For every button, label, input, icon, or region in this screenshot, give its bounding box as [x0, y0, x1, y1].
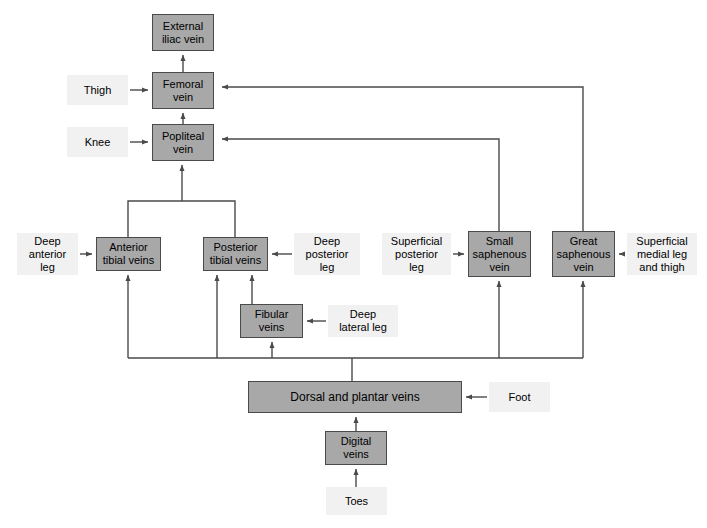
source-label-toes: Toes	[326, 487, 387, 515]
source-label-thigh: Thigh	[67, 75, 128, 105]
node-small-saphenous-vein: Small saphenous vein	[468, 231, 531, 277]
wire-tibial-junction	[128, 201, 235, 237]
node-posterior-tibial-veins: Posterior tibial veins	[203, 237, 268, 271]
source-label-deep-lateral-leg: Deep lateral leg	[328, 305, 398, 337]
source-label-superficial-medial-leg-and-thigh: Superficial medial leg and thigh	[627, 233, 697, 275]
node-fibular-veins: Fibular veins	[240, 304, 303, 338]
source-label-knee: Knee	[67, 127, 128, 157]
source-label-foot: Foot	[489, 382, 550, 412]
wire-great-saphenous-to-femoral	[222, 87, 583, 231]
node-femoral-vein: Femoral vein	[152, 72, 214, 109]
source-label-superficial-posterior-leg: Superficial posterior leg	[382, 233, 451, 275]
node-popliteal-vein: Popliteal vein	[152, 124, 214, 161]
node-digital-veins: Digital veins	[325, 431, 387, 465]
venous-drainage-diagram: External iliac veinFemoral veinPopliteal…	[0, 0, 707, 528]
node-anterior-tibial-veins: Anterior tibial veins	[96, 237, 161, 271]
node-great-saphenous-vein: Great saphenous vein	[552, 231, 615, 277]
node-dorsal-and-plantar-veins: Dorsal and plantar veins	[248, 381, 462, 413]
source-label-deep-anterior-leg: Deep anterior leg	[17, 233, 78, 275]
source-label-deep-posterior-leg: Deep posterior leg	[294, 233, 360, 275]
wire-small-saphenous-to-popliteal	[222, 139, 499, 231]
node-external-iliac-vein: External iliac vein	[152, 14, 214, 51]
